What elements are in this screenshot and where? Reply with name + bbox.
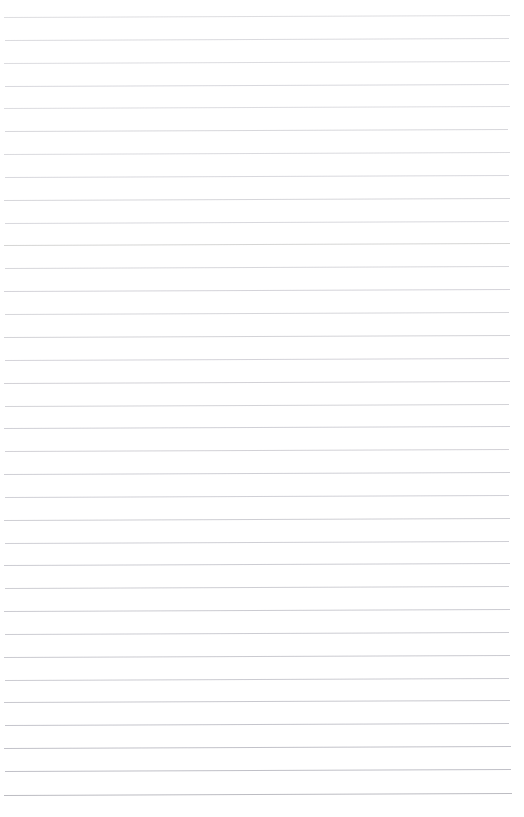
paper-surface: [0, 0, 524, 817]
ruled-paper-page: [0, 0, 524, 817]
